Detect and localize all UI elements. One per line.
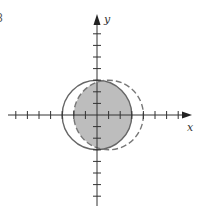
y-axis-label: y — [103, 13, 111, 26]
x-axis-arrow-icon — [182, 112, 192, 119]
figure: 8 — [0, 0, 199, 217]
figure-number: 8 — [0, 11, 3, 25]
y-axis-arrow-icon — [94, 14, 101, 25]
coordinate-plane: x y — [0, 0, 199, 217]
x-axis-label: x — [187, 121, 194, 134]
